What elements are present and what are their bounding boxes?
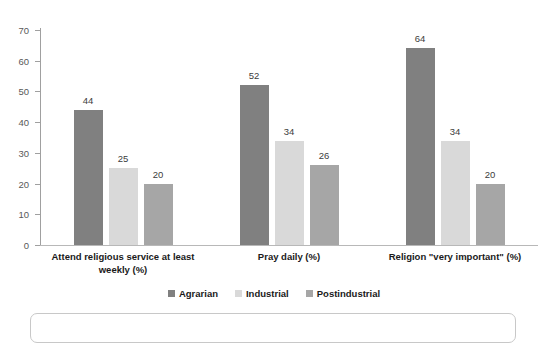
legend-item[interactable]: Postindustrial xyxy=(306,288,380,299)
bar xyxy=(240,85,269,245)
x-axis-line xyxy=(40,245,538,246)
legend-color-swatch xyxy=(168,290,175,297)
bar xyxy=(476,184,505,245)
category-axis-label: Pray daily (%) xyxy=(209,251,369,264)
table-container-edge xyxy=(30,313,516,343)
chart-legend: AgrarianIndustrialPostindustrial xyxy=(0,288,548,299)
bar xyxy=(109,168,138,245)
y-axis-tick xyxy=(35,245,40,246)
y-axis-tick-label: 50 xyxy=(5,86,29,97)
category-axis-label: Religion "very important" (%) xyxy=(375,251,535,264)
legend-color-swatch xyxy=(306,290,313,297)
y-axis-tick-label: 20 xyxy=(5,178,29,189)
bar-value-label: 34 xyxy=(284,126,295,137)
bar-value-label: 64 xyxy=(415,33,426,44)
legend-label: Industrial xyxy=(246,288,289,299)
plot-area xyxy=(40,30,538,245)
y-axis-tick-label: 40 xyxy=(5,117,29,128)
y-axis-tick-label: 70 xyxy=(5,25,29,36)
legend-item[interactable]: Agrarian xyxy=(168,288,218,299)
bar-value-label: 26 xyxy=(319,150,330,161)
legend-color-swatch xyxy=(235,290,242,297)
category-axis-label: Attend religious service at leastweekly … xyxy=(43,251,203,277)
category-label-line: weekly (%) xyxy=(43,264,203,277)
bar-value-label: 34 xyxy=(450,126,461,137)
bar-value-label: 25 xyxy=(118,153,129,164)
legend-label: Agrarian xyxy=(179,288,218,299)
y-axis-tick-label: 0 xyxy=(5,240,29,251)
legend-item[interactable]: Industrial xyxy=(235,288,289,299)
bar xyxy=(406,48,435,245)
y-axis-tick-label: 10 xyxy=(5,209,29,220)
bar-value-label: 44 xyxy=(83,95,94,106)
bar xyxy=(275,141,304,245)
bar xyxy=(441,141,470,245)
bar-value-label: 52 xyxy=(249,70,260,81)
y-axis-tick-label: 60 xyxy=(5,55,29,66)
bar xyxy=(310,165,339,245)
category-label-line: Attend religious service at least xyxy=(43,251,203,264)
legend-label: Postindustrial xyxy=(317,288,380,299)
bar xyxy=(74,110,103,245)
bar-value-label: 20 xyxy=(485,169,496,180)
y-axis-tick-label: 30 xyxy=(5,147,29,158)
bar-value-label: 20 xyxy=(153,169,164,180)
bar xyxy=(144,184,173,245)
